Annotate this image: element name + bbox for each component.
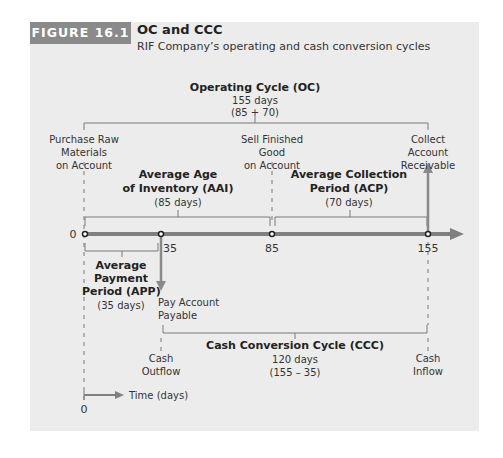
sell-line2: Good bbox=[222, 146, 322, 159]
ccc-formula: (155 – 35) bbox=[205, 366, 385, 379]
ccc-days: 120 days bbox=[205, 353, 385, 366]
aai-title-line2: of Inventory (AAI) bbox=[108, 182, 248, 196]
app-days: (35 days) bbox=[86, 299, 156, 312]
pay-line1: Pay Account bbox=[158, 296, 238, 309]
time-legend-zero: 0 bbox=[78, 403, 90, 416]
app-title-line3: Period (APP) bbox=[82, 285, 160, 299]
pay-line2: Payable bbox=[158, 309, 238, 322]
cash-inflow-line2: Inflow bbox=[403, 365, 453, 378]
app-title-line1: Average bbox=[86, 259, 156, 273]
aai-title-line1: Average Age bbox=[108, 168, 248, 182]
oc-title: Operating Cycle (OC) bbox=[180, 81, 330, 95]
tick-35: 35 bbox=[163, 242, 183, 255]
ccc-title: Cash Conversion Cycle (CCC) bbox=[205, 339, 385, 353]
aai-bracket bbox=[85, 210, 270, 226]
acp-bracket bbox=[275, 210, 427, 226]
sell-line1: Sell Finished bbox=[222, 133, 322, 146]
tick-85: 85 bbox=[262, 242, 282, 255]
purchase-line2: Materials bbox=[34, 146, 134, 159]
acp-title-line1: Average Collection bbox=[284, 168, 414, 182]
cash-outflow-line1: Cash bbox=[136, 352, 186, 365]
ccc-bracket bbox=[163, 325, 427, 339]
time-legend-arrow-icon bbox=[84, 391, 124, 400]
app-title-line2: Payment bbox=[86, 272, 156, 286]
time-legend-label: Time (days) bbox=[129, 389, 188, 402]
collect-line1: Collect bbox=[398, 133, 458, 146]
aai-days: (85 days) bbox=[108, 196, 248, 209]
cash-outflow-line2: Outflow bbox=[136, 365, 186, 378]
tick-155: 155 bbox=[414, 242, 442, 255]
collect-arrow-icon bbox=[423, 163, 433, 234]
purchase-line1: Purchase Raw bbox=[34, 133, 134, 146]
tick-0: 0 bbox=[66, 228, 80, 241]
collect-line2: Account bbox=[398, 146, 458, 159]
acp-title-line2: Period (ACP) bbox=[284, 182, 414, 196]
acp-days: (70 days) bbox=[284, 196, 414, 209]
app-bracket bbox=[85, 243, 158, 257]
cash-inflow-line1: Cash bbox=[403, 352, 453, 365]
oc-formula: (85 + 70) bbox=[180, 106, 330, 119]
